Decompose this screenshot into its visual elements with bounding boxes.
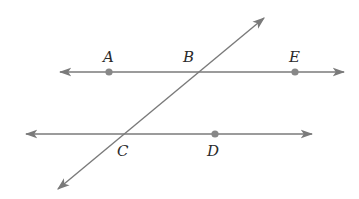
label-A: A <box>101 48 114 66</box>
label-B: B <box>182 48 194 66</box>
label-C: C <box>117 142 129 160</box>
lines-layer <box>26 18 344 189</box>
parallel-lines-diagram: ABECD <box>0 0 359 199</box>
point-D <box>211 130 218 137</box>
points-layer <box>105 68 298 137</box>
label-E: E <box>288 48 300 66</box>
point-A <box>105 68 112 75</box>
label-D: D <box>206 142 219 160</box>
labels-layer: ABECD <box>101 48 300 160</box>
point-E <box>291 68 298 75</box>
transversal-BC <box>58 18 264 189</box>
